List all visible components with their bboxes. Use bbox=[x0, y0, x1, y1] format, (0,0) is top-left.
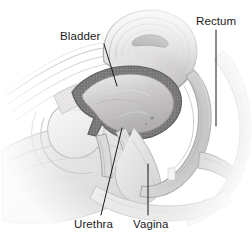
anatomy-illustration bbox=[0, 0, 252, 247]
label-rectum: Rectum bbox=[196, 15, 236, 27]
label-vagina: Vagina bbox=[133, 218, 169, 230]
label-bladder: Bladder bbox=[60, 30, 100, 42]
female-pelvic-anatomy-figure: Bladder Rectum Urethra Vagina bbox=[0, 0, 252, 247]
label-urethra: Urethra bbox=[74, 218, 113, 230]
